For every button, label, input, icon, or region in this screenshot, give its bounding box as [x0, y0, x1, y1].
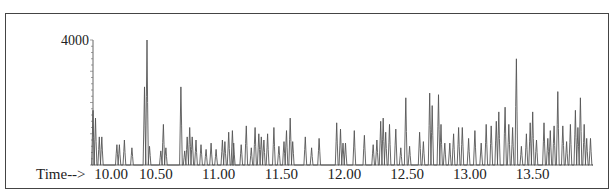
- chromatogram-plot: 4000 10.0010.5011.0011.5012.0012.5013.00…: [0, 0, 613, 195]
- x-tick-label: 11.50: [265, 166, 298, 182]
- x-axis-label: Time-->: [36, 166, 86, 182]
- x-tick-label: 12.50: [390, 166, 424, 182]
- y-tick-label: 4000: [61, 33, 89, 48]
- x-tick-label: 11.00: [202, 166, 235, 182]
- x-tick-label: 12.00: [327, 166, 361, 182]
- y-axis: 4000: [61, 33, 93, 165]
- tic-trace: [92, 40, 593, 165]
- x-tick-label: 10.00: [94, 166, 128, 182]
- x-tick-label: 13.00: [453, 166, 487, 182]
- x-axis: 10.0010.5011.0011.5012.0012.5013.0013.50: [93, 165, 593, 182]
- x-tick-label: 10.50: [139, 166, 173, 182]
- x-tick-label: 13.50: [516, 166, 550, 182]
